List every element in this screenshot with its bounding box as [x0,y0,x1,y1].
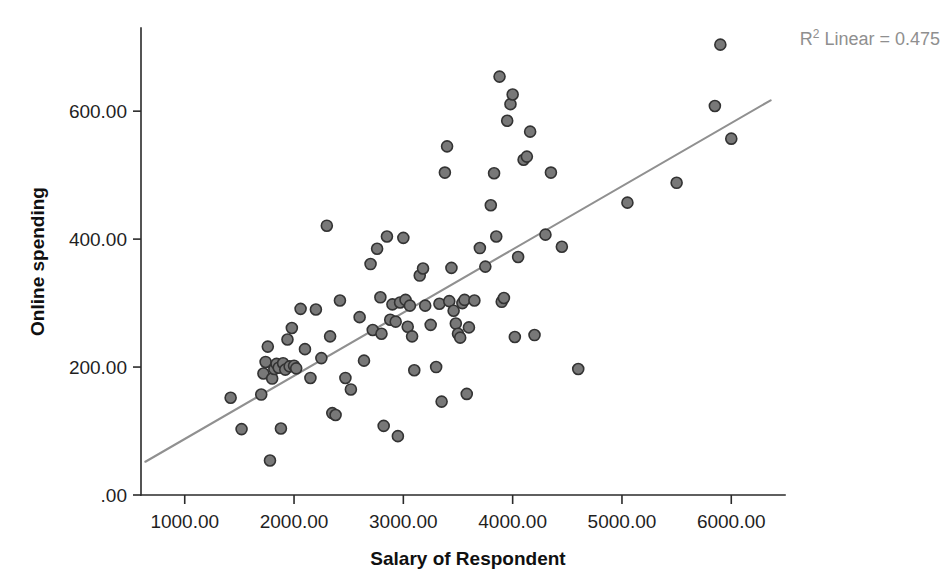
data-point-marker [398,232,409,243]
data-point-marker [513,252,524,263]
data-point-marker [480,261,491,272]
data-point-marker [439,167,450,178]
data-point-marker [450,318,461,329]
r-squared-annotation: R2 Linear = 0.475 [800,27,940,49]
data-point-marker [494,71,505,82]
data-point-marker [521,151,532,162]
data-point-marker [507,89,518,100]
data-point-marker [291,363,302,374]
data-point-marker [545,167,556,178]
data-point-marker [446,262,457,273]
x-tick-label: 2000.00 [260,511,329,532]
data-point-marker [325,331,336,342]
data-point-marker [529,330,540,341]
data-point-marker [305,372,316,383]
plot-canvas: .00200.00400.00600.001000.002000.003000.… [0,0,952,587]
x-tick-label: 4000.00 [478,511,547,532]
data-point-marker [330,410,341,421]
x-tick-label: 6000.00 [697,511,766,532]
data-point-marker [358,355,369,366]
data-point-marker [275,423,286,434]
data-point-marker [709,101,720,112]
data-point-marker [498,292,509,303]
data-point-marker [461,388,472,399]
data-point-marker [418,263,429,274]
data-point-marker [225,392,236,403]
data-point-marker [236,424,247,435]
y-tick-label: 600.00 [69,101,127,122]
data-point-marker [409,365,420,376]
data-point-marker [715,39,726,50]
data-point-marker [256,389,267,400]
linear-regression-line [145,100,770,461]
data-point-marker [340,372,351,383]
y-tick-label: 400.00 [69,229,127,250]
data-point-marker [310,304,321,315]
x-tick-label: 5000.00 [588,511,657,532]
data-point-marker [509,331,520,342]
data-point-marker [390,316,401,327]
data-point-marker [321,220,332,231]
data-point-marker [378,420,389,431]
data-point-marker [262,341,273,352]
data-point-marker [622,197,633,208]
data-point-marker [375,292,386,303]
data-point-marker [455,332,466,343]
data-point-marker [381,231,392,242]
data-point-marker [469,295,480,306]
data-point-marker [376,328,387,339]
data-point-marker [431,362,442,373]
data-point-marker [420,300,431,311]
y-tick-label: 200.00 [69,357,127,378]
data-point-marker [295,303,306,314]
data-point-marker [354,312,365,323]
data-point-marker [425,319,436,330]
scatter-series [225,39,737,466]
data-point-marker [463,322,474,333]
data-point-marker [299,344,310,355]
data-point-marker [442,141,453,152]
data-point-marker [282,334,293,345]
data-point-marker [671,177,682,188]
data-point-marker [540,229,551,240]
scatter-plot-figure: .00200.00400.00600.001000.002000.003000.… [0,0,952,587]
data-point-marker [372,243,383,254]
data-point-marker [365,259,376,270]
y-tick-label: .00 [101,485,127,506]
data-point-marker [264,455,275,466]
y-axis-title: Online spending [27,187,48,336]
data-point-marker [436,396,447,407]
data-point-marker [286,323,297,334]
data-point-marker [345,384,356,395]
data-point-marker [525,126,536,137]
data-point-marker [573,363,584,374]
data-point-marker [334,295,345,306]
data-point-marker [474,243,485,254]
data-point-marker [404,300,415,311]
data-point-marker [316,353,327,364]
data-point-marker [726,133,737,144]
data-point-marker [489,168,500,179]
x-axis-title: Salary of Respondent [370,548,566,569]
data-point-marker [556,241,567,252]
x-tick-label: 3000.00 [369,511,438,532]
data-point-marker [392,431,403,442]
data-point-marker [502,115,513,126]
data-point-marker [485,200,496,211]
data-point-marker [407,331,418,342]
x-tick-label: 1000.00 [150,511,219,532]
data-point-marker [491,231,502,242]
